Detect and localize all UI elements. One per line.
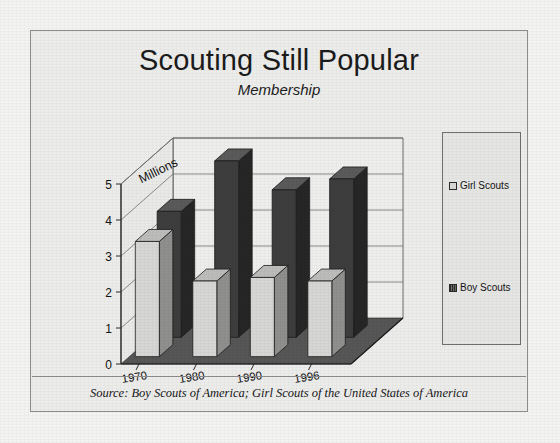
svg-text:3: 3: [105, 250, 112, 264]
legend-item-girl-scouts[interactable]: Girl Scouts: [449, 180, 509, 191]
chart-frame: Scouting Still Popular Membership 012345…: [30, 30, 528, 412]
legend-label-boy-scouts: Boy Scouts: [460, 282, 511, 293]
chart-legend: Girl Scouts Boy Scouts: [442, 132, 521, 345]
svg-text:5: 5: [105, 178, 112, 192]
legend-swatch-girl-scouts-icon: [449, 182, 457, 190]
chart-subtitle: Membership: [31, 81, 527, 98]
bar-chart-3d: 012345Millions1970198019901996: [77, 119, 407, 391]
svg-text:1970: 1970: [121, 369, 148, 385]
figure-page: Scouting Still Popular Membership 012345…: [0, 0, 560, 443]
svg-text:2: 2: [105, 286, 112, 300]
svg-text:0: 0: [105, 358, 112, 372]
legend-swatch-boy-scouts-icon: [449, 284, 457, 292]
plot-area: 012345Millions1970198019901996: [77, 119, 407, 391]
svg-text:1: 1: [105, 322, 112, 336]
svg-text:1996: 1996: [293, 369, 320, 385]
legend-label-girl-scouts: Girl Scouts: [460, 180, 509, 191]
svg-text:1990: 1990: [236, 369, 263, 385]
legend-item-boy-scouts[interactable]: Boy Scouts: [449, 282, 511, 293]
chart-title: Scouting Still Popular: [31, 44, 527, 77]
svg-text:1980: 1980: [178, 369, 205, 385]
source-divider: [32, 376, 526, 377]
svg-text:4: 4: [105, 214, 112, 228]
source-note: Source: Boy Scouts of America; Girl Scou…: [31, 386, 527, 401]
